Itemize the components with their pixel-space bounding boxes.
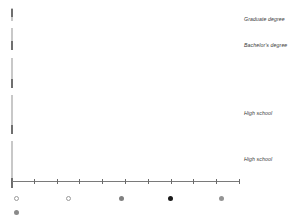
bar-row-label-4: High school [244, 110, 272, 116]
bar-inner-4 [11, 125, 13, 134]
axis-tick [193, 179, 194, 184]
axis-tick [34, 179, 35, 184]
bar-row-label-5: High school [244, 156, 272, 162]
axis-tick [239, 179, 240, 184]
axis-tick [102, 179, 103, 184]
axis-tick [79, 179, 80, 184]
legend-marker-4[interactable] [168, 196, 173, 201]
plot-area [11, 8, 240, 174]
axis-tick [57, 179, 58, 184]
axis-tick [11, 179, 12, 184]
axis-tick [216, 179, 217, 184]
axis-tick [125, 179, 126, 184]
legend-marker-2[interactable] [66, 196, 71, 201]
bar-inner-1 [11, 9, 13, 17]
stacked-bar-chart: Graduate degree Bachelor's degree High s… [0, 0, 308, 221]
legend-marker-3[interactable] [119, 196, 124, 201]
bar-row-label-2: Bachelor's degree [244, 42, 287, 48]
x-axis [11, 181, 240, 182]
legend-marker-5[interactable] [219, 196, 224, 201]
bar-row-label-1: Graduate degree [244, 16, 285, 22]
bar-inner-2 [11, 41, 13, 50]
legend-marker-6[interactable] [14, 210, 19, 215]
axis-tick [171, 179, 172, 184]
legend [0, 190, 308, 220]
axis-tick [148, 179, 149, 184]
legend-marker-1[interactable] [14, 196, 19, 201]
bar-inner-3 [11, 79, 13, 88]
